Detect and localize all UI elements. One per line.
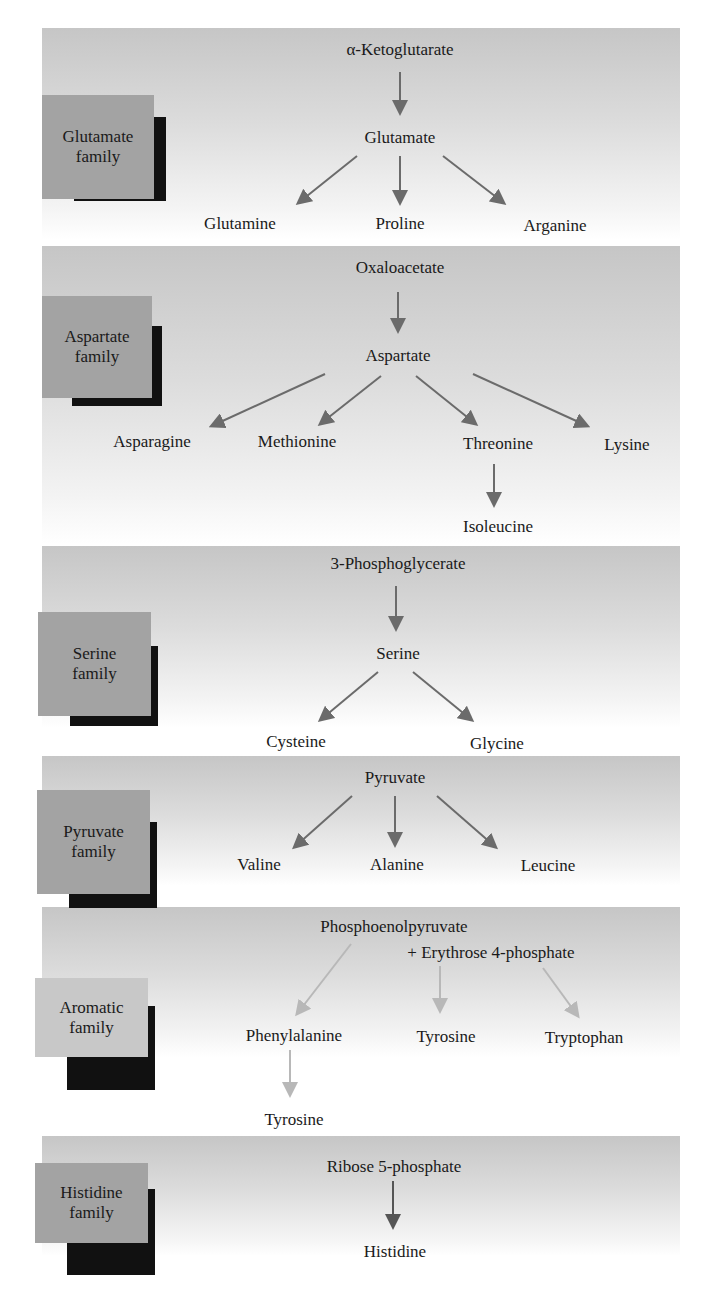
product-leucine: Leucine (521, 856, 576, 876)
product-proline: Proline (375, 214, 424, 234)
precursor-phosphoenolpyruvate: Phosphoenolpyruvate (320, 917, 467, 937)
product-threonine: Threonine (463, 434, 533, 454)
product-glutamine: Glutamine (204, 214, 276, 234)
intermediate-glutamate: Glutamate (365, 128, 436, 148)
precursor-oxaloacetate: Oxaloacetate (356, 258, 445, 278)
precursor-3-phosphoglycerate: 3-Phosphoglycerate (330, 554, 465, 574)
product-phenylalanine: Phenylalanine (246, 1026, 342, 1046)
intermediate-aspartate: Aspartate (365, 346, 430, 366)
product-arganine: Arganine (524, 216, 587, 236)
intermediate-serine: Serine (376, 644, 419, 664)
precursor-ribose-5-phosphate: Ribose 5-phosphate (327, 1157, 462, 1177)
product-alanine: Alanine (370, 855, 424, 875)
product-methionine: Methionine (258, 432, 336, 452)
precursor-pyruvate: Pyruvate (365, 768, 425, 788)
product-tryptophan: Tryptophan (545, 1028, 624, 1048)
precursor-erythrose-4-phosphate: + Erythrose 4-phosphate (407, 943, 574, 963)
product-tyrosine: Tyrosine (416, 1027, 475, 1047)
product-asparagine: Asparagine (113, 432, 190, 452)
product-valine: Valine (237, 855, 280, 875)
product-tyrosine-from-phenylalanine: Tyrosine (264, 1110, 323, 1130)
precursor-alpha-ketoglutarate: α-Ketoglutarate (346, 40, 453, 60)
product-isoleucine: Isoleucine (463, 517, 533, 537)
product-cysteine: Cysteine (266, 732, 326, 752)
product-histidine: Histidine (364, 1242, 426, 1262)
product-glycine: Glycine (470, 734, 524, 754)
product-lysine: Lysine (604, 435, 649, 455)
